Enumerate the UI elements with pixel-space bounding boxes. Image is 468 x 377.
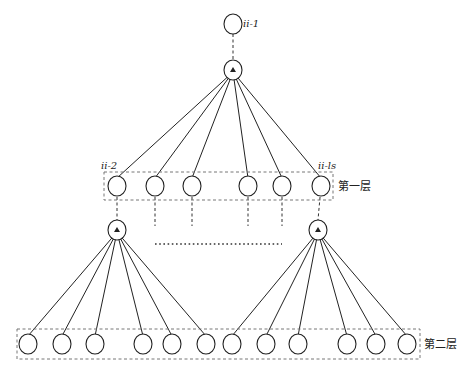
edge <box>95 232 117 336</box>
edge <box>232 232 318 336</box>
edge <box>318 232 376 336</box>
layer1-node <box>273 176 291 196</box>
edges <box>28 72 407 336</box>
layer2-node <box>338 334 356 354</box>
layer2-node <box>53 334 71 354</box>
root-node <box>224 14 242 34</box>
layer2-node <box>19 334 37 354</box>
layer1-node <box>312 176 330 196</box>
edge <box>28 232 117 336</box>
layer2-node <box>289 334 307 354</box>
layer2-node <box>197 334 215 354</box>
edge <box>318 232 347 336</box>
layer2-node <box>398 334 416 354</box>
edge <box>155 72 233 178</box>
layer2-node <box>223 334 241 354</box>
edge <box>62 232 117 336</box>
edge <box>117 232 172 336</box>
dashed-links <box>117 34 321 226</box>
layer2-box <box>17 329 420 359</box>
layer2-node <box>257 334 275 354</box>
layer1-last-label: ii-ls <box>318 160 336 171</box>
layer2-name: 第二层 <box>424 337 457 351</box>
layer2-node <box>367 334 385 354</box>
layer1-node <box>146 176 164 196</box>
layer2-node <box>163 334 181 354</box>
edge <box>298 232 318 336</box>
layer1-node <box>108 176 126 196</box>
layer1-name: 第一层 <box>338 179 371 193</box>
layer1-first-label: ii-2 <box>101 160 117 171</box>
edge <box>266 232 318 336</box>
layer1-node <box>239 176 257 196</box>
edge <box>192 72 233 178</box>
tree-diagram: ii-1 ii-2 ii-ls 第一层 第二层 <box>0 0 468 377</box>
edge <box>318 232 407 336</box>
root-label: ii-1 <box>243 18 259 29</box>
layer1-node <box>183 176 201 196</box>
layer2-node <box>134 334 152 354</box>
edge <box>117 72 233 178</box>
layer2-node <box>86 334 104 354</box>
layer1-box <box>104 172 333 200</box>
